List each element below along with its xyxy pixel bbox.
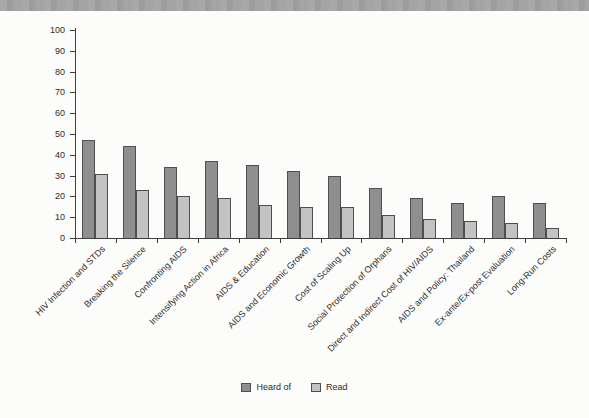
x-axis-label: AIDS and Policy: Thailand: [395, 244, 476, 325]
y-axis-tick: [70, 155, 75, 156]
x-axis-tick: [198, 239, 199, 243]
y-axis: [75, 28, 76, 239]
bar-chart: 0102030405060708090100HIV Infection and …: [0, 0, 589, 418]
x-axis-label: HIV Infection and STDs: [33, 244, 107, 318]
y-axis-tick: [70, 113, 75, 114]
x-axis-tick: [321, 239, 322, 243]
y-axis-tick-label: 100: [35, 25, 65, 35]
y-axis-tick: [70, 134, 75, 135]
bar-heard-of-4: [246, 165, 259, 238]
x-axis-tick: [116, 239, 117, 243]
legend-label-read: Read: [326, 382, 348, 392]
x-axis-tick: [239, 239, 240, 243]
bar-heard-of-1: [123, 146, 136, 238]
x-axis-tick: [157, 239, 158, 243]
x-axis-label: Social Protection of Orphans: [306, 244, 394, 332]
y-axis-tick: [70, 217, 75, 218]
bar-read-6: [341, 207, 354, 238]
legend-swatch-heard-of: [241, 383, 251, 392]
y-axis-tick-label: 50: [35, 129, 65, 139]
bar-heard-of-9: [451, 203, 464, 238]
bar-heard-of-0: [82, 140, 95, 238]
x-axis-tick: [443, 239, 444, 243]
x-axis-tick: [361, 239, 362, 243]
bar-read-10: [505, 223, 518, 238]
bar-heard-of-6: [328, 176, 341, 238]
y-axis-tick-label: 70: [35, 87, 65, 97]
y-axis-tick: [70, 92, 75, 93]
y-axis-tick-label: 80: [35, 67, 65, 77]
y-axis-tick-label: 30: [35, 171, 65, 181]
x-axis-tick: [402, 239, 403, 243]
chart-legend: Heard of Read: [0, 382, 589, 392]
y-axis-tick: [70, 30, 75, 31]
y-axis-tick: [70, 72, 75, 73]
bar-heard-of-8: [410, 198, 423, 238]
x-axis-tick: [566, 239, 567, 243]
legend-item-heard-of: Heard of: [241, 382, 291, 392]
bar-read-1: [136, 190, 149, 238]
bar-heard-of-7: [369, 188, 382, 238]
bar-read-8: [423, 219, 436, 238]
x-axis-label: AIDS and Economic Growth: [226, 244, 312, 330]
x-axis-label: Intensifying Action in Africa: [147, 244, 230, 327]
bar-heard-of-2: [164, 167, 177, 238]
legend-label-heard-of: Heard of: [256, 382, 291, 392]
y-axis-tick: [70, 176, 75, 177]
bar-read-9: [464, 221, 477, 238]
bar-heard-of-10: [492, 196, 505, 238]
y-axis-tick: [70, 196, 75, 197]
bar-read-11: [546, 228, 559, 238]
y-axis-tick-label: 60: [35, 108, 65, 118]
y-axis-tick-label: 90: [35, 46, 65, 56]
bar-read-3: [218, 198, 231, 238]
x-axis-tick: [280, 239, 281, 243]
bar-read-2: [177, 196, 190, 238]
bar-read-4: [259, 205, 272, 238]
x-axis-label: Ex-ante/Ex-post Evaluation: [433, 244, 517, 328]
y-axis-tick-label: 20: [35, 191, 65, 201]
bar-heard-of-3: [205, 161, 218, 238]
legend-item-read: Read: [311, 382, 348, 392]
bar-read-5: [300, 207, 313, 238]
y-axis-tick-label: 0: [35, 233, 65, 243]
bar-heard-of-11: [533, 203, 546, 238]
scanned-page: 0102030405060708090100HIV Infection and …: [0, 0, 589, 418]
bar-heard-of-5: [287, 171, 300, 238]
plot-area: 0102030405060708090100HIV Infection and …: [0, 0, 589, 418]
x-axis-tick: [75, 239, 76, 243]
y-axis-tick-label: 10: [35, 212, 65, 222]
bar-read-7: [382, 215, 395, 238]
y-axis-tick-label: 40: [35, 150, 65, 160]
y-axis-tick: [70, 51, 75, 52]
x-axis-tick: [484, 239, 485, 243]
legend-swatch-read: [311, 383, 321, 392]
bar-read-0: [95, 174, 108, 238]
x-axis-tick: [525, 239, 526, 243]
